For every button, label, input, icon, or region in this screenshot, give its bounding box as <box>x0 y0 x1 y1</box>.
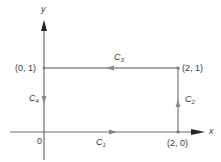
point-label-2-0: (2, 0) <box>167 138 188 148</box>
contour-diagram: y x (0, 1) (2, 1) (2, 0) 0 C1 C2 C3 C4 <box>0 0 221 162</box>
c2-direction-arrow-icon <box>176 99 181 107</box>
curve-label-c1: C1 <box>96 137 106 148</box>
curve-label-c4: C4 <box>29 93 40 104</box>
origin-label: 0 <box>37 136 42 146</box>
c3-direction-arrow-icon <box>106 66 114 71</box>
c4-direction-arrow-icon <box>42 96 47 104</box>
y-axis-label: y <box>40 4 46 14</box>
point-0-1-marker <box>43 67 46 70</box>
c1-direction-arrow-icon <box>109 130 117 135</box>
x-axis-label: x <box>208 126 214 136</box>
point-label-0-1: (0, 1) <box>15 63 36 73</box>
point-label-2-1: (2, 1) <box>182 63 203 73</box>
point-2-0-marker <box>176 130 179 133</box>
x-axis-arrow-icon <box>191 129 205 135</box>
curve-label-c2: C2 <box>185 94 196 105</box>
curve-label-c3: C3 <box>114 52 125 63</box>
contour-path <box>44 68 178 132</box>
point-2-1-marker <box>176 66 179 69</box>
y-axis-arrow-icon <box>41 20 47 31</box>
